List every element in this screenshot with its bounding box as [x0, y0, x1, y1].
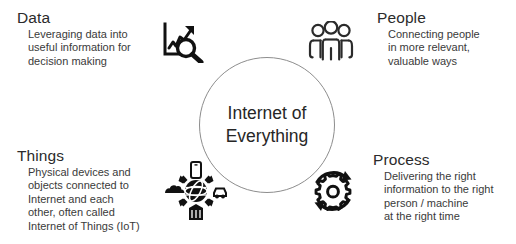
quadrant-body-line: information to the right	[384, 183, 493, 196]
quadrant-people: People Connecting people in more relevan…	[377, 8, 480, 68]
quadrant-title-process: Process	[373, 150, 493, 169]
infographic-canvas: Data Leveraging data into useful informa…	[0, 0, 516, 244]
quadrant-title-people: People	[377, 8, 480, 27]
quadrant-data: Data Leveraging data into useful informa…	[17, 8, 131, 68]
quadrant-title-data: Data	[17, 8, 131, 27]
quadrant-body-line: objects connected to	[28, 179, 140, 192]
quadrant-body-line: Physical devices and	[28, 166, 140, 179]
quadrant-things: Things Physical devices and objects conn…	[17, 146, 140, 233]
quadrant-body-line: in more relevant,	[388, 41, 480, 54]
gear-cycle-icon	[308, 166, 358, 216]
quadrant-body-data: Leveraging data into useful information …	[17, 28, 131, 68]
quadrant-body-line: valuable ways	[388, 55, 480, 68]
quadrant-process: Process Delivering the right information…	[373, 150, 493, 224]
phone-node	[191, 162, 201, 178]
quadrant-body-line: useful information for	[28, 41, 131, 54]
quadrant-body-process: Delivering the right information to the …	[373, 170, 493, 224]
quadrant-body-line: Internet of Things (IoT)	[28, 220, 140, 233]
quadrant-body-line: person / machine	[384, 197, 493, 210]
chart-magnifier-icon	[161, 21, 207, 63]
quadrant-title-things: Things	[17, 146, 140, 165]
quadrant-body-line: Internet and each	[28, 193, 140, 206]
cloud-node	[165, 185, 184, 193]
connected-devices-icon	[163, 160, 229, 222]
quadrant-body-line: at the right time	[384, 210, 493, 223]
center-label: Internet of Everything	[226, 102, 309, 148]
quadrant-body-line: decision making	[28, 55, 131, 68]
quadrant-body-people: Connecting people in more relevant, valu…	[377, 28, 480, 68]
quadrant-body-things: Physical devices and objects connected t…	[17, 166, 140, 233]
quadrant-body-line: Leveraging data into	[28, 28, 131, 41]
quadrant-body-line: other, often called	[28, 206, 140, 219]
quadrant-body-line: Connecting people	[388, 28, 480, 41]
car-node	[214, 189, 226, 199]
building-node	[189, 204, 203, 220]
people-group-icon	[307, 21, 355, 63]
quadrant-body-line: Delivering the right	[384, 170, 493, 183]
globe-node	[185, 179, 207, 203]
